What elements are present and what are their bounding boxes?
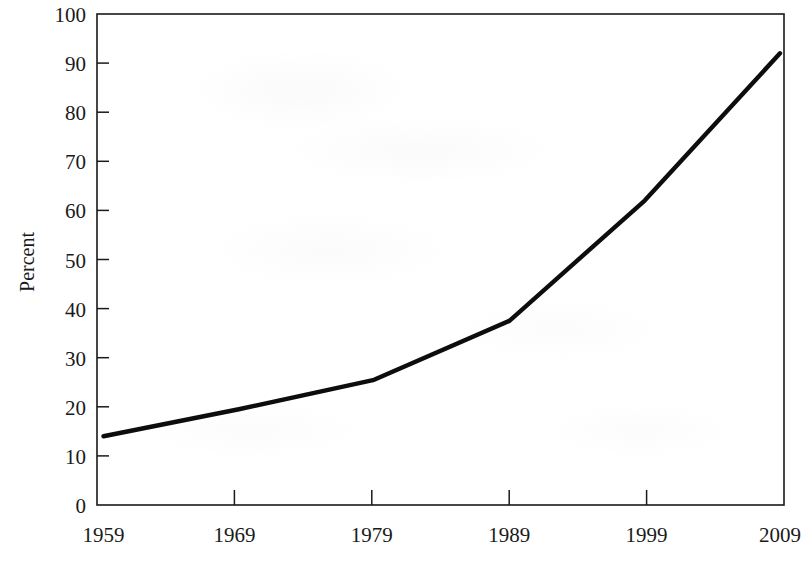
y-label-60: 60 (65, 199, 86, 223)
chart-figure: 100 90 80 70 60 50 40 30 20 10 0 1959 19… (0, 0, 810, 563)
x-label-1979: 1979 (351, 523, 393, 547)
y-label-90: 90 (65, 52, 86, 76)
x-label-1959: 1959 (83, 523, 125, 547)
x-label-1969: 1969 (213, 523, 255, 547)
x-label-1999: 1999 (626, 523, 668, 547)
y-label-80: 80 (65, 101, 86, 125)
x-label-2009: 2009 (759, 523, 801, 547)
line-chart-plot: 100 90 80 70 60 50 40 30 20 10 0 1959 19… (0, 0, 810, 563)
x-axis-ticks (234, 490, 646, 505)
y-label-30: 30 (65, 347, 86, 371)
y-label-50: 50 (65, 249, 86, 273)
plot-frame (97, 14, 784, 505)
y-label-70: 70 (65, 150, 86, 174)
y-label-20: 20 (65, 396, 86, 420)
y-axis-tick-labels: 100 90 80 70 60 50 40 30 20 10 0 (55, 3, 87, 518)
data-series-line (104, 53, 781, 436)
x-label-1989: 1989 (488, 523, 530, 547)
y-label-40: 40 (65, 298, 86, 322)
y-axis-ticks (97, 63, 109, 456)
y-label-10: 10 (65, 445, 86, 469)
y-axis-title: Percent (16, 232, 38, 292)
y-label-100: 100 (55, 3, 87, 27)
y-label-0: 0 (76, 494, 87, 518)
x-axis-tick-labels: 1959 1969 1979 1989 1999 2009 (83, 523, 802, 547)
